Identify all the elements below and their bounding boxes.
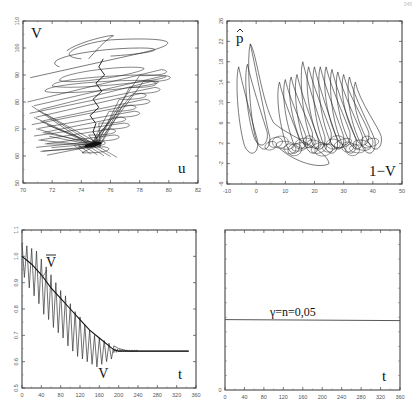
legend-V-bar: V — [46, 255, 56, 270]
time-series-gamma: 040801201602002402803203600γ=n=0,05t — [208, 205, 416, 415]
x-tick-label: 360 — [395, 394, 404, 400]
x-tick-label: 30 — [341, 188, 347, 194]
y-tick-label: 1.0 — [13, 253, 19, 261]
chart-bottom-right: 040801201602002402803203600γ=n=0,05t — [208, 205, 416, 415]
y-tick-label: 6 — [218, 121, 224, 124]
x-tick-label: 240 — [337, 394, 346, 400]
x-tick-label: 200 — [318, 394, 327, 400]
xlabel-t: t — [382, 368, 387, 384]
phase-plot-1mv-p: -1001020304050-6-2261014182226p1−V — [208, 0, 416, 205]
x-tick-label: 120 — [75, 392, 84, 398]
x-tick-label: 70 — [20, 187, 26, 193]
legend-V: V — [98, 366, 108, 381]
x-tick-label: 80 — [261, 394, 267, 400]
x-tick-label: 50 — [399, 188, 405, 194]
y-tick-label: 22 — [218, 38, 224, 44]
x-tick-label: 74 — [78, 187, 84, 193]
y-tick-label: 1.1 — [13, 226, 19, 234]
x-tick-label: 40 — [38, 392, 44, 398]
y-tick-label: 50 — [14, 180, 20, 186]
x-tick-label: 160 — [298, 394, 307, 400]
x-tick-label: 40 — [370, 188, 376, 194]
y-tick-label: 0.6 — [13, 358, 19, 366]
y-tick-label: 0.8 — [13, 305, 19, 313]
y-tick-label: 0.5 — [13, 384, 19, 392]
y-tick-label: 18 — [218, 59, 224, 65]
x-tick-label: 0 — [20, 392, 23, 398]
chart-top-left: 707274767880825060708090100110Vu — [0, 0, 208, 205]
x-tick-label: 80 — [58, 392, 64, 398]
y-tick-label: 70 — [14, 126, 20, 132]
y-tick-label: 2 — [218, 142, 224, 145]
x-tick-label: 80 — [166, 187, 172, 193]
phase-plot-u-v: 707274767880825060708090100110Vu — [0, 0, 208, 205]
series-gamma — [225, 320, 400, 321]
x-tick-label: 76 — [107, 187, 113, 193]
y-tick-label: 0 — [218, 387, 221, 393]
x-tick-label: 82 — [195, 187, 201, 193]
chart-bottom-left: 040801201602002402803203600.50.60.70.80.… — [0, 205, 208, 415]
x-tick-label: 240 — [133, 392, 142, 398]
y-tick-label: 60 — [14, 153, 20, 159]
series-V-bar — [22, 256, 189, 351]
x-tick-label: 320 — [376, 394, 385, 400]
xlabel-t: t — [178, 366, 183, 382]
chart-top-right: -1001020304050-6-2261014182226p1−V — [208, 0, 416, 205]
y-tick-label: 0.9 — [13, 279, 19, 287]
ylabel-p-hat: p — [236, 30, 244, 46]
x-tick-label: 10 — [282, 188, 288, 194]
y-tick-label: 90 — [14, 72, 20, 78]
y-tick-label: 14 — [218, 79, 224, 85]
y-tick-label: 100 — [14, 43, 20, 52]
y-tick-label: 80 — [14, 99, 20, 105]
x-tick-label: 360 — [191, 392, 200, 398]
y-tick-label: -2 — [218, 161, 224, 166]
x-tick-label: 0 — [223, 394, 226, 400]
x-tick-label: 280 — [153, 392, 162, 398]
y-tick-label: 0.7 — [13, 332, 19, 340]
time-series-v: 040801201602002402803203600.50.60.70.80.… — [0, 205, 208, 415]
x-tick-label: 200 — [114, 392, 123, 398]
ylabel-V: V — [31, 25, 42, 41]
x-tick-label: -10 — [223, 188, 231, 194]
xlabel-1-minus-V: 1−V — [369, 163, 396, 179]
x-tick-label: 320 — [172, 392, 181, 398]
xlabel-u: u — [178, 160, 186, 176]
x-tick-label: 72 — [49, 187, 55, 193]
y-tick-label: 10 — [218, 99, 224, 105]
x-tick-label: 0 — [255, 188, 258, 194]
x-tick-label: 120 — [279, 394, 288, 400]
y-tick-label: 26 — [218, 18, 224, 24]
x-tick-label: 20 — [311, 188, 317, 194]
y-tick-label: 110 — [14, 17, 20, 26]
x-tick-label: 40 — [241, 394, 247, 400]
x-tick-label: 280 — [357, 394, 366, 400]
x-tick-label: 78 — [137, 187, 143, 193]
annotation-gamma-n: γ=n=0,05 — [269, 305, 316, 319]
x-tick-label: 160 — [95, 392, 104, 398]
y-tick-label: -6 — [218, 182, 224, 187]
